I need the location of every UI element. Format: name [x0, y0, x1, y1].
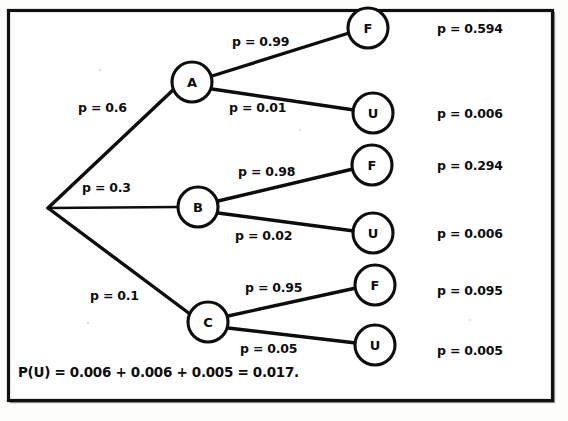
node-a-label: A: [187, 75, 197, 90]
edge-label-c-u: p = 0.05: [240, 341, 297, 356]
result-a-f: p = 0.594: [437, 21, 503, 36]
summary-equation: P(U) = 0.006 + 0.006 + 0.005 = 0.017.: [18, 364, 299, 380]
node-c-u-label: U: [370, 338, 381, 353]
scan-speck: [99, 69, 101, 71]
edge-root-to-b: [48, 207, 178, 208]
node-b-u-label: U: [368, 226, 379, 241]
edge-label-a-u: p = 0.01: [229, 100, 286, 115]
node-a[interactable]: A: [172, 62, 212, 102]
node-a-u-label: U: [368, 106, 379, 121]
result-c-f: p = 0.095: [437, 283, 503, 298]
result-c-u: p = 0.005: [437, 343, 503, 358]
node-c-f[interactable]: F: [355, 265, 395, 305]
edge-label-c-f: p = 0.95: [245, 280, 302, 295]
edge-label-root-c: p = 0.1: [90, 288, 139, 303]
result-b-f: p = 0.294: [437, 158, 503, 173]
edge-label-root-a: p = 0.6: [78, 100, 127, 115]
edge-label-b-f: p = 0.98: [238, 164, 295, 179]
result-b-u: p = 0.006: [437, 226, 503, 241]
edge-label-a-f: p = 0.99: [232, 34, 289, 49]
edge-label-b-u: p = 0.02: [235, 228, 292, 243]
scan-speck: [469, 319, 471, 321]
node-b-label: B: [193, 200, 203, 215]
node-b-f[interactable]: F: [352, 145, 392, 185]
node-b[interactable]: B: [178, 187, 218, 227]
node-c[interactable]: C: [188, 302, 228, 342]
node-a-f[interactable]: F: [348, 8, 388, 48]
scan-speck: [299, 129, 301, 131]
scan-speck: [87, 322, 89, 324]
node-b-f-label: F: [368, 158, 377, 173]
node-b-u[interactable]: U: [353, 213, 393, 253]
tree-canvas: A B C F U F U F: [0, 0, 568, 421]
node-c-f-label: F: [371, 278, 380, 293]
probability-tree-diagram: A B C F U F U F: [0, 0, 568, 421]
edge-label-root-b: p = 0.3: [82, 180, 131, 195]
result-a-u: p = 0.006: [437, 106, 503, 121]
node-c-u[interactable]: U: [355, 325, 395, 365]
node-c-label: C: [203, 315, 213, 330]
node-a-u[interactable]: U: [353, 93, 393, 133]
node-a-f-label: F: [364, 21, 373, 36]
